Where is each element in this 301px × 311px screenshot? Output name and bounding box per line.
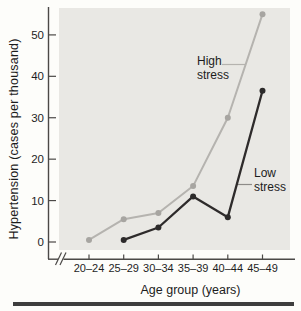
line-chart-canvas: 0102030405020–2425–2930–3435–3940–4445–4… [0, 0, 301, 311]
y-tick-label: 50 [31, 29, 44, 41]
y-tick-label: 20 [31, 153, 44, 165]
chart-figure: Hypertension (cases per thousand) 010203… [0, 0, 301, 311]
low-stress-point [121, 237, 127, 243]
y-tick-label: 40 [31, 70, 44, 82]
low-stress-point [190, 193, 196, 199]
high-stress-point [260, 11, 266, 17]
high-stress-point [155, 210, 161, 216]
low-stress-point [260, 88, 266, 94]
low-stress-point [225, 214, 231, 220]
y-tick-label: 0 [38, 236, 44, 248]
x-tick-label: 20–24 [74, 262, 105, 274]
x-tick-label: 35–39 [178, 262, 209, 274]
x-axis-title: Age group (years) [120, 283, 261, 297]
x-tick-label: 45–49 [247, 262, 278, 274]
high-stress-point [86, 237, 92, 243]
x-tick-label: 30–34 [143, 262, 174, 274]
low-stress-point [155, 225, 161, 231]
high-stress-point [121, 216, 127, 222]
x-tick-label: 40–44 [213, 262, 244, 274]
high-stress-point [225, 115, 231, 121]
series-label-low-stress: Low stress [254, 166, 296, 195]
high-stress-point [190, 183, 196, 189]
y-tick-label: 10 [31, 195, 44, 207]
series-label-high-stress: High stress [197, 54, 239, 83]
y-tick-label: 30 [31, 112, 44, 124]
bottom-rule [13, 302, 294, 306]
x-tick-label: 25–29 [108, 262, 139, 274]
